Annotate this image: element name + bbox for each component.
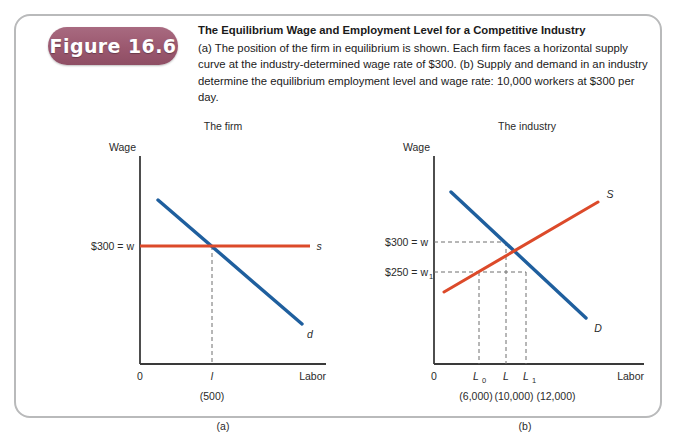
industry-wage1-tick-subscript: 1 (429, 272, 433, 281)
industry-demand-curve (451, 192, 586, 318)
panel-industry-plot: Wage Labor 0 S D (366, 142, 658, 422)
firm-y-axis-label: Wage (109, 142, 136, 153)
industry-origin-label: 0 (431, 370, 437, 382)
figure-title: The Equilibrium Wage and Employment Leve… (198, 22, 650, 39)
industry-L-tick-label: L (503, 370, 509, 382)
industry-L0-tick-value: (6,000) (459, 390, 492, 402)
firm-labor-tick-label: l (211, 370, 214, 382)
industry-y-axis-label: Wage (403, 142, 430, 153)
industry-L1-tick-subscript: 1 (532, 376, 536, 385)
industry-supply-curve-label: S (606, 188, 613, 200)
firm-demand-curve-label: d (307, 328, 314, 340)
firm-demand-curve (158, 200, 302, 324)
panel-industry-letter: (b) (366, 420, 658, 432)
industry-supply-curve (444, 202, 598, 292)
firm-origin-label: 0 (137, 370, 143, 382)
industry-x-axis-label: Labor (617, 370, 644, 382)
figure-number-label: Figure 16.6 (50, 35, 177, 57)
firm-chart-svg: Wage Labor 0 s d $300 = w l (88, 142, 336, 422)
panel-industry-title: The industry (366, 120, 658, 132)
industry-wage1-tick-group: $250 = w 1 (385, 266, 433, 281)
figure-frame: Figure 16.6 The Equilibrium Wage and Emp… (14, 14, 662, 418)
industry-L1-tick-group: L 1 (523, 370, 536, 385)
firm-labor-tick-value: (500) (200, 390, 225, 402)
firm-x-axis-label: Labor (299, 370, 326, 382)
figure-caption-block: The Equilibrium Wage and Employment Leve… (198, 22, 650, 106)
panel-firm-title: The firm (88, 120, 336, 132)
firm-wage-tick-label: $300 = w (91, 240, 134, 252)
firm-supply-curve-label: s (316, 240, 322, 252)
industry-L1-tick-label: L (523, 370, 529, 382)
panel-firm-plot: Wage Labor 0 s d $300 = w l (88, 142, 336, 422)
industry-L0-tick-subscript: 0 (482, 376, 486, 385)
industry-L1-tick-value: (12,000) (536, 390, 575, 402)
industry-L0-tick-label: L (473, 370, 479, 382)
industry-L-tick-value: (10,000) (494, 390, 533, 402)
figure-caption-text: (a) The position of the firm in equilibr… (198, 40, 650, 106)
panel-firm-letter: (a) (88, 420, 336, 432)
industry-L0-tick-group: L 0 (473, 370, 486, 385)
industry-chart-svg: Wage Labor 0 S D (366, 142, 658, 422)
industry-wage1-tick-label: $250 = w (385, 266, 428, 278)
figure-number-badge: Figure 16.6 (48, 27, 178, 65)
industry-demand-curve-label: D (594, 322, 602, 334)
industry-wage-tick-label: $300 = w (385, 236, 428, 248)
